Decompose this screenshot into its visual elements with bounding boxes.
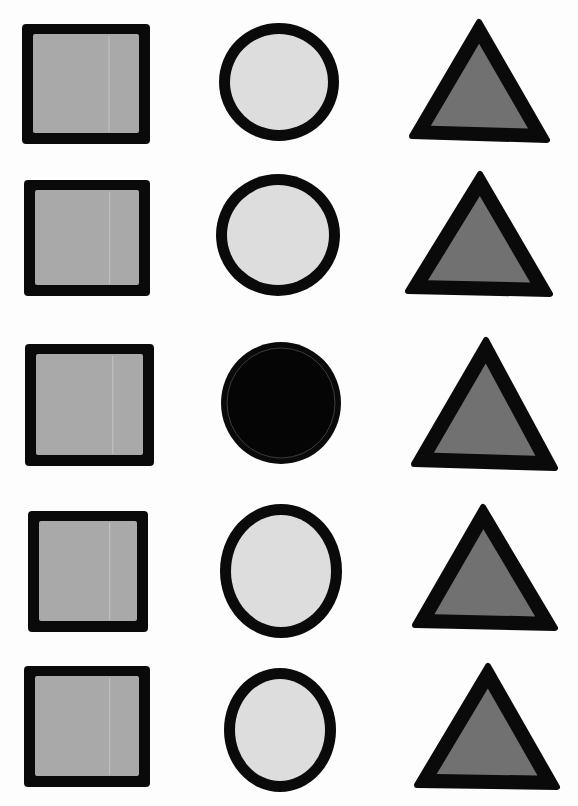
circle-row-2 <box>227 185 329 285</box>
circle-row-5 <box>235 679 325 781</box>
square-row-5 <box>35 676 139 776</box>
circle-row-1 <box>230 34 328 130</box>
square-row-2 <box>35 190 139 285</box>
shapes-canvas <box>0 0 578 806</box>
black-circle-row-3 <box>227 348 335 458</box>
square-row-3 <box>36 354 143 455</box>
circle-row-4 <box>231 515 331 627</box>
square-row-1 <box>33 34 139 133</box>
square-row-4 <box>39 521 137 621</box>
